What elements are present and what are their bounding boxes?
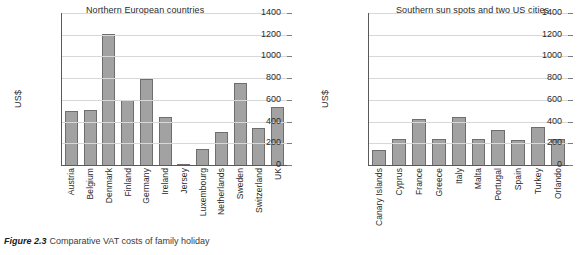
x-axis-tick-label: Jersey	[179, 168, 189, 194]
x-axis-tick-label: Orlando	[553, 168, 563, 199]
x-axis-label-cell: Ireland	[156, 165, 175, 231]
bar[interactable]	[121, 100, 134, 165]
x-axis-tick-label: Spain	[513, 168, 523, 190]
bar-item[interactable]	[369, 13, 389, 165]
y-axis-tick-mark	[287, 56, 292, 57]
y-axis-tick-label: 1000	[542, 50, 562, 60]
plot-area: AustriaBelgiumDenmarkFinlandGermanyIrela…	[61, 13, 287, 166]
y-axis-tick-mark	[287, 143, 292, 144]
x-axis-tick-label: Canary Islands	[374, 168, 384, 226]
bar-item[interactable]	[469, 13, 489, 165]
gridline	[369, 13, 568, 14]
y-axis-tick-mark	[568, 143, 573, 144]
y-axis-tick-mark	[568, 122, 573, 123]
bar-item[interactable]	[449, 13, 469, 165]
bar[interactable]	[159, 117, 172, 165]
gridline	[62, 122, 287, 123]
x-axis-tick-label: Sweden	[235, 168, 245, 199]
y-axis-tick-mark	[287, 35, 292, 36]
y-axis-tick-mark	[287, 13, 292, 14]
x-axis-label-cell: France	[409, 165, 429, 231]
x-axis-tick-label: Denmark	[104, 168, 114, 203]
y-axis-tick-label: 200	[266, 137, 281, 147]
y-axis-tick-label: 1200	[261, 29, 281, 39]
bar[interactable]	[215, 132, 228, 165]
y-axis-tick-label: 200	[547, 137, 562, 147]
bar[interactable]	[84, 110, 97, 165]
x-axis-label-cell: Luxembourg	[193, 165, 212, 231]
x-axis-label-cell: Austria	[62, 165, 81, 231]
bar[interactable]	[234, 83, 247, 166]
bar-item[interactable]	[156, 13, 175, 165]
x-axis-label-cell: Malta	[469, 165, 489, 231]
y-axis-tick-label: 0	[276, 159, 281, 169]
gridline	[62, 56, 287, 57]
gridline	[62, 143, 287, 144]
figure-container: Northern European countries US$ AustriaB…	[0, 0, 580, 255]
x-axis-tick-label: France	[414, 168, 424, 195]
x-axis-label-cell: Jersey	[175, 165, 194, 231]
bar[interactable]	[452, 117, 466, 165]
bar-item[interactable]	[429, 13, 449, 165]
y-axis-label: US$	[13, 90, 23, 108]
x-axis-label-cell: Denmark	[100, 165, 119, 231]
bar-item[interactable]	[137, 13, 156, 165]
bar[interactable]	[372, 150, 386, 165]
bar-group	[62, 13, 287, 165]
x-axis-labels: Canary IslandsCyprusFranceGreeceItalyMal…	[369, 165, 568, 231]
bar[interactable]	[65, 111, 78, 165]
gridline	[62, 35, 287, 36]
bar-item[interactable]	[231, 13, 250, 165]
y-axis-tick-label: 400	[547, 116, 562, 126]
y-axis-tick-label: 800	[266, 72, 281, 82]
y-axis-tick-mark	[568, 100, 573, 101]
bar-item[interactable]	[212, 13, 231, 165]
y-axis-tick-mark	[568, 165, 573, 166]
bar-group	[369, 13, 568, 165]
bar-item[interactable]	[389, 13, 409, 165]
x-axis-labels: AustriaBelgiumDenmarkFinlandGermanyIrela…	[62, 165, 287, 231]
x-axis-label-cell: Netherlands	[212, 165, 231, 231]
x-axis-tick-label: Ireland	[160, 168, 170, 195]
y-axis-tick-label: 600	[266, 94, 281, 104]
bar-item[interactable]	[508, 13, 528, 165]
y-axis-tick-mark	[287, 100, 292, 101]
y-axis-tick-mark	[287, 78, 292, 79]
bar[interactable]	[196, 149, 209, 165]
bar[interactable]	[412, 119, 426, 165]
x-axis-label-cell: Belgium	[81, 165, 100, 231]
y-axis-tick-label: 1400	[261, 7, 281, 17]
bar-item[interactable]	[488, 13, 508, 165]
bar-item[interactable]	[175, 13, 194, 165]
x-axis-label-cell: UK	[268, 165, 287, 231]
bar[interactable]	[531, 127, 545, 165]
x-axis-label-cell: Italy	[449, 165, 469, 231]
y-axis-label: US$	[320, 90, 330, 108]
x-axis-tick-label: Cyprus	[394, 168, 404, 196]
bar-item[interactable]	[81, 13, 100, 165]
plot-area: Canary IslandsCyprusFranceGreeceItalyMal…	[368, 13, 568, 166]
x-axis-tick-label: Netherlands	[216, 168, 226, 215]
y-axis-tick-mark	[568, 56, 573, 57]
chart-panel-northern-european: Northern European countries US$ AustriaB…	[0, 0, 300, 232]
x-axis-label-cell: Cyprus	[389, 165, 409, 231]
gridline	[369, 100, 568, 101]
y-axis-tick-label: 1400	[542, 7, 562, 17]
x-axis-label-cell: Spain	[508, 165, 528, 231]
bar[interactable]	[252, 128, 265, 165]
bar-item[interactable]	[193, 13, 212, 165]
x-axis-label-cell: Sweden	[231, 165, 250, 231]
y-axis-tick-label: 0	[557, 159, 562, 169]
y-axis-tick-mark	[568, 13, 573, 14]
x-axis-tick-label: Finland	[123, 168, 133, 197]
bar-item[interactable]	[62, 13, 81, 165]
bar-item[interactable]	[100, 13, 119, 165]
bar-item[interactable]	[409, 13, 429, 165]
figure-caption-text: Comparative VAT costs of family holiday	[50, 236, 210, 246]
bar-item[interactable]	[118, 13, 137, 165]
x-axis-label-cell: Portugal	[488, 165, 508, 231]
bar[interactable]	[491, 130, 505, 165]
y-axis-tick-mark	[568, 78, 573, 79]
gridline	[62, 13, 287, 14]
y-axis-tick-mark	[287, 165, 292, 166]
